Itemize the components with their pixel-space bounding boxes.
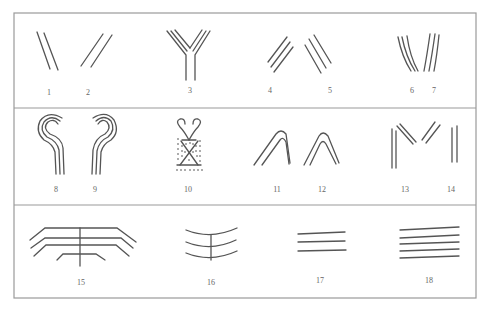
label-4: 4 <box>268 86 272 95</box>
motif-13 <box>392 124 416 168</box>
motif-11 <box>254 131 290 165</box>
label-15: 15 <box>77 278 85 287</box>
motif-14 <box>422 122 457 162</box>
label-8: 8 <box>54 185 58 194</box>
motif-12 <box>304 133 339 165</box>
label-11: 11 <box>273 185 281 194</box>
motif-2 <box>81 34 112 67</box>
motif-18 <box>400 227 459 258</box>
label-5: 5 <box>328 86 332 95</box>
label-9: 9 <box>93 185 97 194</box>
label-10: 10 <box>184 185 192 194</box>
motif-9 <box>92 114 116 174</box>
motif-3 <box>167 30 210 80</box>
label-16: 16 <box>207 278 215 287</box>
motif-15 <box>30 228 136 266</box>
dot-pattern <box>176 138 203 171</box>
label-6: 6 <box>410 86 414 95</box>
label-17: 17 <box>316 276 324 285</box>
label-7: 7 <box>432 86 436 95</box>
label-13: 13 <box>401 185 409 194</box>
motif-6 <box>398 36 418 71</box>
label-1: 1 <box>47 88 51 97</box>
label-3: 3 <box>188 86 192 95</box>
motif-5 <box>305 35 331 73</box>
label-2: 2 <box>86 88 90 97</box>
motif-17 <box>298 232 346 251</box>
motif-8 <box>38 115 64 174</box>
label-18: 18 <box>425 276 433 285</box>
motif-plate: 1 2 3 4 5 6 7 <box>0 0 489 310</box>
motif-1 <box>37 32 58 70</box>
label-12: 12 <box>318 185 326 194</box>
motif-7 <box>424 34 439 71</box>
motif-4 <box>268 37 293 72</box>
motif-16 <box>186 228 237 260</box>
motif-10 <box>176 119 203 171</box>
label-14: 14 <box>447 185 455 194</box>
